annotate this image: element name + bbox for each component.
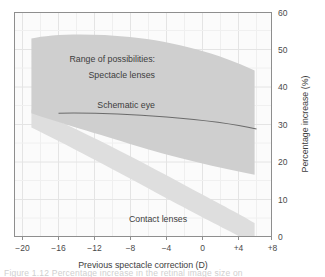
percentage-increase-chart: −20 −16 −12 −8 −4 0 +4 +8 Previous spect…	[0, 0, 325, 277]
ytick-label-0: 0	[278, 232, 283, 242]
ytick-label-60: 60	[278, 8, 288, 18]
ytick-label-40: 40	[278, 82, 288, 92]
figure-container: −20 −16 −12 −8 −4 0 +4 +8 Previous spect…	[0, 0, 325, 277]
annotation-contact-lenses: Contact lenses	[129, 214, 188, 224]
annotation-spectacle-lenses: Spectacle lenses	[88, 70, 155, 80]
ytick-label-30: 30	[278, 120, 288, 130]
xaxis-tick-labels: −20 −16 −12 −8 −4 0 +4 +8	[15, 243, 277, 253]
figure-caption: Figure 1.12 Percentage increase in the r…	[0, 267, 325, 277]
xtick-label-0: −20	[15, 243, 30, 253]
xaxis-ticks	[23, 237, 272, 240]
yaxis-tick-labels: 0 10 20 30 40 50 60	[278, 8, 288, 242]
xtick-label-5: 0	[200, 243, 205, 253]
ytick-label-50: 50	[278, 45, 288, 55]
annotation-range-of-possibilities: Range of possibilities:	[69, 54, 155, 64]
ytick-label-20: 20	[278, 157, 288, 167]
xtick-label-4: −4	[162, 243, 172, 253]
xtick-label-2: −12	[87, 243, 102, 253]
annotation-schematic-eye: Schematic eye	[97, 100, 155, 110]
xtick-label-1: −16	[51, 243, 66, 253]
ytick-label-10: 10	[278, 195, 288, 205]
xtick-label-3: −8	[126, 243, 136, 253]
yaxis-title: Percentage increase (%)	[300, 76, 310, 173]
xtick-label-6: +4	[234, 243, 244, 253]
xtick-label-7: +8	[268, 243, 278, 253]
